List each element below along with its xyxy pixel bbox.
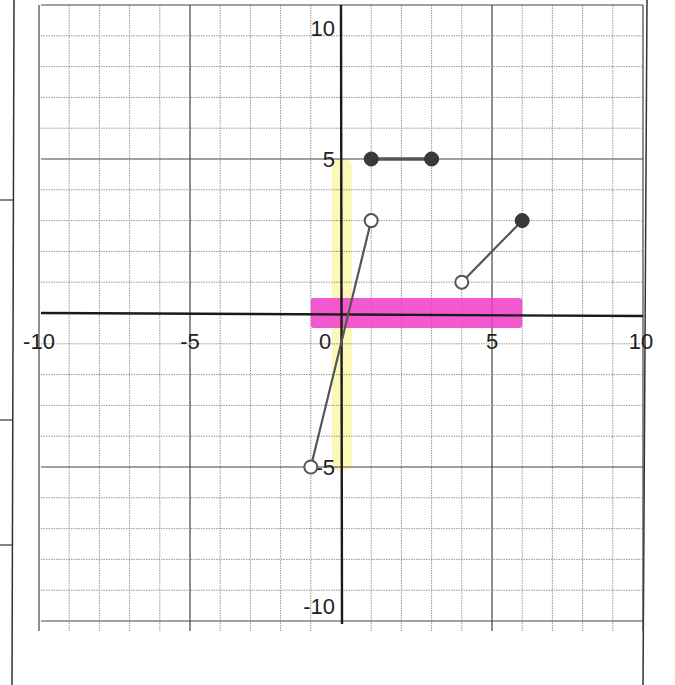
page-border-left: [12, 0, 14, 685]
open-endpoint: [304, 461, 317, 474]
x-tick-label: 0: [319, 329, 331, 354]
graph-paper: -10-50510105-5-10: [0, 0, 675, 685]
x-tick-label: -5: [180, 329, 200, 354]
coordinate-plane: -10-50510105-5-10: [0, 0, 675, 685]
closed-endpoint: [515, 214, 529, 228]
open-endpoint: [365, 214, 378, 227]
y-tick-label: -5: [315, 455, 335, 480]
x-tick-label: 10: [629, 329, 653, 354]
x-tick-label: 5: [486, 329, 498, 354]
y-tick-label: 10: [311, 16, 335, 41]
open-endpoint: [455, 276, 468, 289]
y-tick-label: -10: [303, 594, 335, 619]
closed-endpoint: [425, 152, 439, 166]
y-axis: [341, 5, 342, 624]
x-tick-label: -10: [23, 329, 55, 354]
y-tick-label: 5: [323, 147, 335, 172]
closed-endpoint: [364, 152, 378, 166]
